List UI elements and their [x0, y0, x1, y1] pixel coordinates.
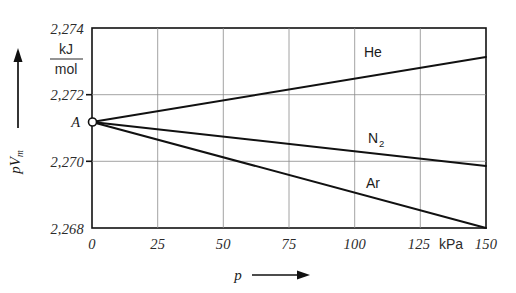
series-label-he: He: [364, 44, 382, 60]
y-axis-unit-denominator: mol: [55, 61, 78, 77]
xtick-label-150: 150: [475, 236, 498, 252]
ytick-label-2268: 2,268: [50, 221, 84, 237]
xtick-label-75: 75: [282, 236, 297, 252]
xtick-label-50: 50: [216, 236, 231, 252]
series-label-n2: N: [368, 130, 378, 146]
data-point-a-marker: [89, 118, 97, 126]
xtick-label-125: 125: [408, 236, 430, 252]
y-axis-unit-numerator: kJ: [59, 41, 73, 57]
series-label-n2-subscript: 2: [379, 138, 384, 149]
series-label-ar: Ar: [366, 175, 380, 191]
x-axis-label: p: [233, 267, 242, 283]
y-axis-label-text: pVm: [7, 150, 25, 175]
chart-figure: A He N 2 Ar 2,274 2,272 2,270 2,268 kJ m…: [0, 0, 516, 293]
xtick-label-0: 0: [88, 236, 96, 252]
ytick-label-2270: 2,270: [50, 154, 84, 170]
ytick-label-2274: 2,274: [50, 21, 84, 37]
x-axis-unit-label: kPa: [439, 236, 463, 252]
ytick-label-2272: 2,272: [50, 87, 84, 103]
y-axis-label-group: pVm: [7, 150, 25, 175]
x-axis-direction-arrow: [252, 271, 310, 280]
xtick-label-100: 100: [344, 236, 367, 252]
data-point-a-label: A: [70, 114, 80, 130]
y-axis-ticks: [86, 95, 92, 162]
y-axis-unit-fraction: kJ mol: [50, 41, 83, 77]
xtick-label-25: 25: [150, 236, 165, 252]
y-axis-direction-arrow: [14, 48, 23, 128]
